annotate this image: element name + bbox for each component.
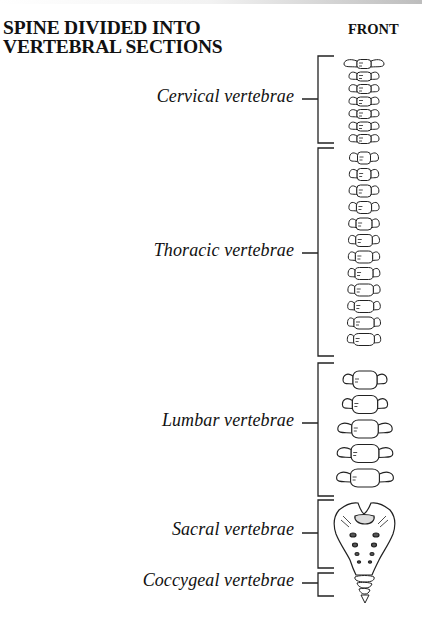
- bracket-sacral: [302, 500, 334, 568]
- coccyx-drawing: [355, 576, 374, 604]
- bracket-coccygeal: [302, 573, 334, 596]
- bracket-thoracic: [302, 148, 334, 356]
- lumbar-spine-drawing: [337, 371, 394, 487]
- bracket-lumbar: [302, 363, 334, 496]
- spine-illustration: [0, 0, 422, 622]
- sacrum-drawing: [334, 503, 394, 575]
- section-brackets: [302, 56, 334, 596]
- thoracic-spine-drawing: [347, 152, 380, 346]
- cervical-spine-drawing: [344, 60, 384, 144]
- bracket-cervical: [302, 56, 334, 143]
